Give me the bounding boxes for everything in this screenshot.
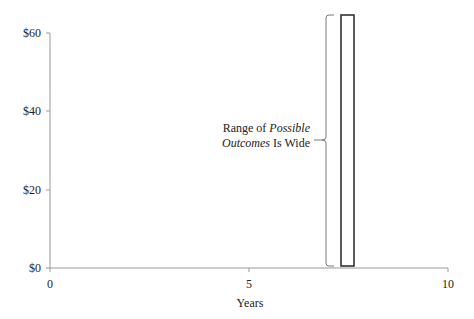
y-ticks xyxy=(46,33,50,268)
y-tick-0: $0 xyxy=(29,261,41,275)
annotation-line-1: Range of Possible xyxy=(223,121,311,135)
x-axis-label: Years xyxy=(237,296,264,310)
chart: $60 $40 $20 $0 0 5 10 Years Range of Pos… xyxy=(0,0,474,319)
annotation-line-2: Outcomes Is Wide xyxy=(222,136,310,150)
x-tick-5: 5 xyxy=(246,277,252,291)
y-tick-20: $20 xyxy=(23,183,41,197)
y-tick-60: $60 xyxy=(23,26,41,40)
x-ticks xyxy=(50,268,448,272)
outcome-range-bar xyxy=(341,15,354,266)
y-tick-40: $40 xyxy=(23,104,41,118)
range-bracket xyxy=(314,15,334,266)
x-tick-10: 10 xyxy=(442,277,454,291)
x-tick-0: 0 xyxy=(47,277,53,291)
